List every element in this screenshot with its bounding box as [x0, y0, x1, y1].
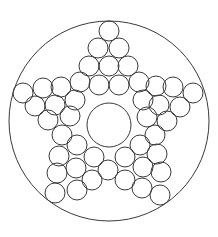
small-circle: [84, 147, 104, 167]
small-circle: [13, 83, 33, 103]
small-circle: [109, 75, 129, 95]
small-circle: [45, 183, 65, 203]
small-circle: [145, 125, 165, 145]
small-circle: [82, 170, 102, 190]
small-circle: [67, 135, 87, 155]
small-circle: [137, 107, 157, 127]
small-circle: [52, 125, 72, 145]
star-small-circles: [13, 21, 203, 205]
small-circle: [88, 38, 108, 58]
small-circle: [151, 162, 171, 182]
small-circle: [51, 77, 71, 97]
small-circle: [45, 95, 65, 115]
small-circle: [150, 185, 170, 205]
small-circle: [157, 111, 177, 131]
small-circle: [170, 97, 190, 117]
small-circle: [115, 147, 135, 167]
small-circle: [70, 72, 90, 92]
small-circle: [133, 157, 153, 177]
small-circle: [25, 96, 45, 116]
small-circle: [147, 144, 167, 164]
star-of-circles-diagram: [0, 0, 218, 237]
small-circle: [67, 180, 87, 200]
small-circle: [183, 83, 203, 103]
small-circle: [33, 78, 53, 98]
small-circle: [109, 38, 129, 58]
small-circle: [79, 56, 99, 76]
small-circle: [132, 178, 152, 198]
small-circle: [99, 56, 119, 76]
small-circle: [38, 110, 58, 130]
small-circle: [89, 75, 109, 95]
center-circle: [87, 103, 131, 147]
